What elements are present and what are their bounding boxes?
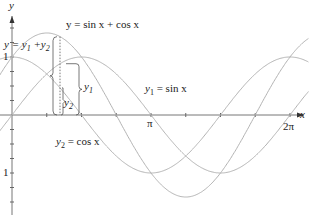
x-tick-label-pi: π [147, 117, 153, 129]
sin-curve-label: y1 = sin x [145, 82, 187, 97]
y-axis-arrow-icon [10, 16, 15, 23]
plot-area [0, 0, 310, 217]
chart: y x y = sin x + cos x y = y1 +y2 1 1 π 2… [0, 0, 310, 217]
sum-equation-label: y = sin x + cos x [66, 18, 139, 30]
y2-bracket-label: y2 [64, 96, 73, 111]
y-axis-label: y [9, 0, 14, 11]
cos-curve-label: y2 = cos x [56, 135, 100, 150]
x-tick-label-2pi: 2π [283, 120, 294, 132]
y-tick-label-1: 1 [3, 50, 9, 62]
y1-bracket-label: y1 [84, 80, 93, 95]
sum-definition-label: y = y1 +y2 [4, 38, 50, 53]
x-axis-label: x [300, 108, 305, 120]
sum-brace [50, 37, 57, 115]
y-tick-label-neg1: 1 [3, 166, 9, 178]
